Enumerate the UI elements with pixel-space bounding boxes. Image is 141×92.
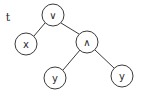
tree-node-y-right: y: [111, 65, 133, 87]
edge-and-y1: [63, 50, 80, 70]
edge-and-y2: [95, 50, 114, 68]
or-operator-label: ∨: [49, 10, 56, 21]
and-operator-label: ∧: [83, 37, 90, 48]
tree-name-label: t: [6, 11, 11, 24]
edge-root-x: [34, 23, 45, 36]
variable-x-label: x: [23, 39, 29, 50]
variable-y-label: y: [119, 71, 125, 82]
tree-node-x: x: [15, 33, 37, 55]
edge-root-and: [61, 23, 79, 34]
tree-node-y-left: y: [44, 67, 66, 89]
variable-y-label: y: [52, 73, 58, 84]
tree-node-root: ∨: [42, 4, 64, 26]
expression-tree-diagram: t ∨ x ∧ y y: [0, 0, 141, 92]
tree-edges: [34, 23, 114, 70]
tree-node-and: ∧: [76, 31, 98, 53]
